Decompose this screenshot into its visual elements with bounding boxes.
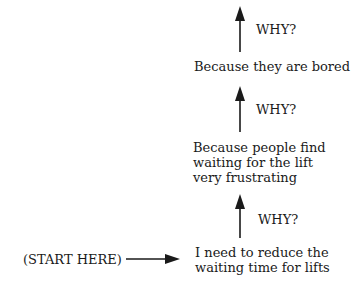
up-arrow-icon-2 [235, 86, 245, 132]
why-label-2: WHY? [256, 102, 296, 117]
step-2-text: Because people find waiting for the lift… [193, 140, 326, 185]
why-label-3: WHY? [256, 22, 296, 37]
up-arrow-icon-3 [235, 6, 245, 52]
right-arrow-icon [126, 254, 180, 264]
why-label-1: WHY? [258, 212, 298, 227]
step-3-line-1: Because they are bored [194, 59, 350, 74]
step-1-line-1: I need to reduce the [195, 245, 330, 260]
up-arrow-icon-1 [235, 194, 245, 238]
step-2-line-2: waiting for the lift [193, 155, 326, 170]
step-3-text: Because they are bored [194, 59, 350, 74]
step-2-line-1: Because people find [193, 140, 326, 155]
start-here-label: (START HERE) [23, 252, 122, 267]
step-1-text: I need to reduce the waiting time for li… [195, 245, 330, 275]
step-1-line-2: waiting time for lifts [195, 260, 330, 275]
step-2-line-3: very frustrating [193, 170, 326, 185]
